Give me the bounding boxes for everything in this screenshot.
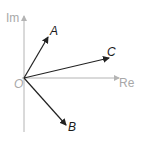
imaginary-axis-label: Im [6,11,19,25]
vector-b-label: B [68,120,76,134]
origin-label: O [14,77,23,91]
vector-c [24,58,109,78]
vector-a [24,37,48,78]
vector-c-label: C [107,45,116,59]
argand-diagram: Im Re O A B C [0,0,144,143]
vector-b [24,78,66,125]
vector-a-label: A [49,24,58,38]
real-axis-label: Re [119,76,135,90]
